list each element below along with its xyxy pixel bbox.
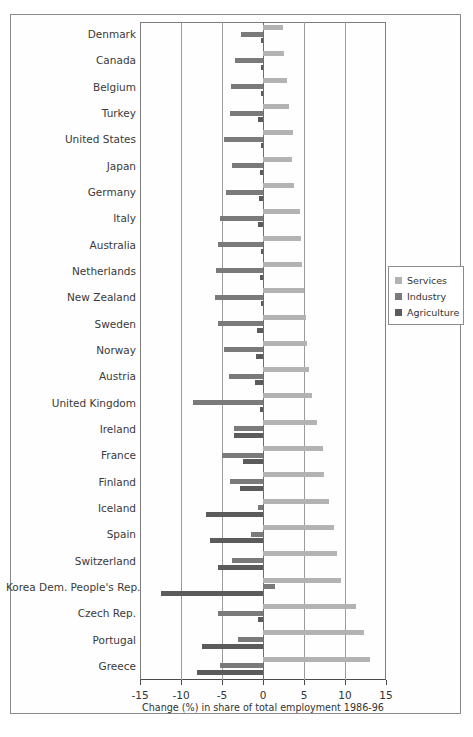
bar-industry [216,268,263,273]
x-tick-label-10: 10 [338,689,351,701]
legend-item-services[interactable]: Services [395,275,458,286]
x-tick-label-15: 15 [379,689,392,701]
bar-group-row [140,233,386,259]
bar-group-row [140,575,386,601]
bar-agriculture [210,538,263,543]
category-label: Norway [6,344,136,356]
category-label: Italy [6,212,136,224]
category-label: Austria [6,370,136,382]
bar-services [263,78,287,83]
bar-group-row [140,390,386,416]
bar-industry [193,400,263,405]
bar-services [263,525,334,530]
x-tick--10 [181,680,182,685]
x-tick--15 [140,680,141,685]
category-label: Portugal [6,634,136,646]
legend-item-agriculture[interactable]: Agriculture [395,307,458,318]
bar-services [263,288,304,293]
category-label: Iceland [6,502,136,514]
category-label: Denmark [6,28,136,40]
bar-industry [226,190,263,195]
bar-agriculture [261,249,263,254]
x-tick-label--5: -5 [217,689,227,701]
x-axis-title: Change (%) in share of total employment … [140,702,386,713]
bar-group-row [140,469,386,495]
bar-industry [232,558,263,563]
bar-industry [241,32,263,37]
bar-services [263,393,312,398]
bar-agriculture [260,170,263,175]
bar-services [263,472,324,477]
bar-services [263,236,301,241]
bar-group-row [140,259,386,285]
bar-group-row [140,101,386,127]
bar-industry [251,532,263,537]
category-label: Switzerland [6,555,136,567]
x-tick-label--10: -10 [172,689,189,701]
bar-services [263,551,337,556]
bar-group-row [140,627,386,653]
x-tick-label-0: 0 [260,689,267,701]
category-label: France [6,449,136,461]
bar-services [263,657,370,662]
x-tick-0 [263,680,264,685]
bar-industry [222,453,263,458]
x-tick-label-5: 5 [301,689,308,701]
x-tick-label--15: -15 [131,689,148,701]
bar-industry [215,295,263,300]
bar-services [263,367,309,372]
category-label: Ireland [6,423,136,435]
bar-group-row [140,654,386,680]
category-label: Finland [6,476,136,488]
bar-agriculture [261,143,263,148]
bar-industry [235,58,263,63]
bar-industry [258,505,263,510]
legend-label-services: Services [407,275,447,286]
bar-agriculture [240,486,263,491]
bar-agriculture [260,275,263,280]
bar-agriculture [206,512,263,517]
legend-swatch-services-icon [395,277,402,284]
bar-group-row [140,601,386,627]
bar-industry [218,242,263,247]
bar-industry [238,637,263,642]
category-label: Turkey [6,107,136,119]
legend-label-agriculture: Agriculture [407,307,459,318]
bar-services [263,420,317,425]
bar-group-row [140,75,386,101]
bar-services [263,499,329,504]
bar-agriculture [258,617,263,622]
bar-industry [230,111,263,116]
bar-group-row [140,127,386,153]
bar-agriculture [259,196,263,201]
bar-agriculture [243,459,264,464]
bar-services [263,209,300,214]
bar-group-row [140,312,386,338]
bar-industry [231,84,263,89]
bar-group-row [140,180,386,206]
bar-agriculture [261,65,263,70]
legend-item-industry[interactable]: Industry [395,291,458,302]
bar-agriculture [218,565,263,570]
bar-services [263,51,284,56]
bar-group-row [140,338,386,364]
chart-legend: Services Industry Agriculture [388,266,464,325]
bar-agriculture [257,328,263,333]
bar-agriculture [260,407,263,412]
bar-industry [224,137,263,142]
bar-agriculture [261,91,263,96]
bar-agriculture [258,222,263,227]
category-label: Korea Dem. People's Rep. [6,581,136,593]
bar-group-row [140,522,386,548]
bar-services [263,341,307,346]
bar-industry [220,216,263,221]
bar-group-row [140,443,386,469]
bar-agriculture [256,354,263,359]
legend-label-industry: Industry [407,291,446,302]
bar-industry [232,163,263,168]
legend-swatch-industry-icon [395,293,402,300]
bar-industry [234,426,263,431]
bar-services [263,446,323,451]
bar-group-row [140,417,386,443]
legend-swatch-agriculture-icon [395,309,402,316]
